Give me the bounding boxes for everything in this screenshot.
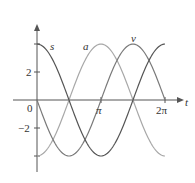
y-tick-label-2: 2 xyxy=(26,66,32,78)
motion-graph: 2 −2 0 π 2π t s a v xyxy=(0,0,195,183)
x-axis-arrow-icon xyxy=(177,97,184,103)
x-tick-label-pi: π xyxy=(96,104,102,116)
curve-label-a: a xyxy=(83,40,89,52)
y-tick-label-neg2: −2 xyxy=(18,122,30,134)
curve-label-v: v xyxy=(131,32,136,44)
y-axis-arrow-icon xyxy=(34,24,40,31)
x-axis-label: t xyxy=(185,96,189,108)
curve-label-s: s xyxy=(50,40,54,52)
x-tick-label-2pi: 2π xyxy=(156,104,168,116)
origin-label: 0 xyxy=(27,102,33,114)
